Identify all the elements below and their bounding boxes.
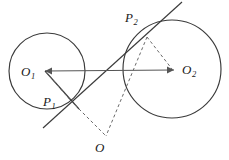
label-tangent-point-right: P2 [125, 9, 137, 25]
geometry-figure: O1 O2 P1 P2 O [0, 0, 229, 160]
dashed-p1-o [71, 101, 106, 136]
label-tangent-point-left-base: P [43, 94, 51, 109]
dashed-p2-o2 [147, 37, 172, 69]
label-center-right-base: O [182, 62, 191, 77]
label-center-left-sub: 1 [31, 71, 35, 81]
label-intersection-point: O [95, 139, 104, 155]
label-center-right-sub: 2 [192, 69, 196, 79]
arrowhead-toward-o1-icon [45, 68, 52, 75]
label-intersection-point-base: O [95, 140, 104, 155]
label-tangent-point-right-sub: 2 [133, 17, 137, 27]
label-tangent-point-left: P1 [43, 93, 55, 109]
label-tangent-point-left-sub: 1 [51, 101, 55, 111]
arrowhead-toward-o2-icon [167, 67, 174, 74]
label-center-left: O1 [21, 63, 35, 79]
label-tangent-point-right-base: P [125, 10, 133, 25]
center-line-o1-o2 [45, 70, 174, 71]
label-center-left-base: O [21, 64, 30, 79]
tangent-line [43, 2, 182, 128]
label-center-right: O2 [182, 61, 196, 77]
